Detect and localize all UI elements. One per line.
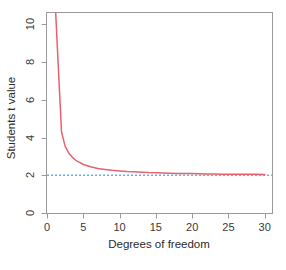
x-tick-label: 25 <box>222 222 234 233</box>
y-axis-ticks <box>42 25 47 214</box>
y-tick-label: 2 <box>25 168 36 182</box>
x-tick-label: 20 <box>186 222 198 233</box>
x-tick-label: 30 <box>259 222 271 233</box>
y-tick-label: 8 <box>25 55 36 69</box>
x-tick-label: 0 <box>44 222 50 233</box>
x-tick-label: 5 <box>80 222 86 233</box>
x-tick-label: 15 <box>150 222 162 233</box>
chart-figure: 051015202530 0246810 Degrees of freedom … <box>0 0 286 270</box>
y-tick-label: 0 <box>25 206 36 220</box>
x-tick-label: 10 <box>113 222 125 233</box>
y-tick-label: 6 <box>25 93 36 107</box>
t-value-curve <box>54 0 264 175</box>
x-axis-ticks <box>48 214 266 219</box>
y-tick-label: 4 <box>25 131 36 145</box>
y-axis-title: Students t value <box>6 77 18 159</box>
x-axis-title: Degrees of freedom <box>108 239 210 251</box>
y-tick-label: 10 <box>25 17 36 31</box>
plot-frame <box>47 13 273 214</box>
plot-area <box>0 0 286 270</box>
